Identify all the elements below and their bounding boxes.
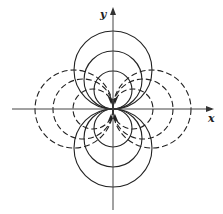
arrow-icon [108, 114, 113, 121]
axes: y x [12, 7, 215, 210]
y-axis-arrow-icon [110, 7, 116, 15]
x-axis-label: x [207, 112, 215, 125]
dipole-field-diagram: y x [0, 0, 223, 214]
y-axis-label: y [99, 8, 108, 21]
